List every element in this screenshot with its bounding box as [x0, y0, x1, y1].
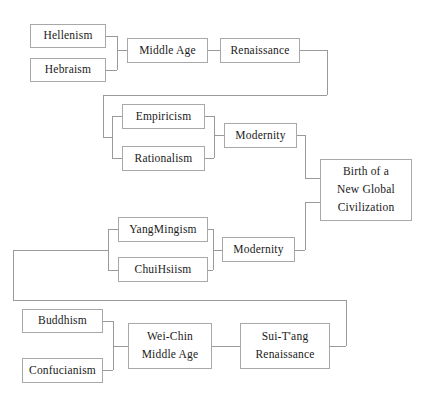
- node-rationalism[interactable]: Rationalism: [122, 146, 205, 171]
- node-label-line: Modernity: [235, 127, 285, 145]
- node-middle-age[interactable]: Middle Age: [127, 38, 208, 63]
- node-sui-tang[interactable]: Sui-T'angRenaissance: [240, 323, 330, 369]
- node-label-line: YangMingism: [129, 221, 197, 239]
- node-chuihsiism[interactable]: ChuiHsiism: [118, 257, 208, 282]
- node-label-line: Middle Age: [139, 42, 196, 60]
- node-label-line: Wei-Chin: [147, 328, 193, 346]
- node-label-line: New Global: [337, 181, 395, 199]
- node-label-line: Middle Age: [142, 346, 199, 364]
- node-label-line: Sui-T'ang: [262, 328, 309, 346]
- node-birth-global[interactable]: Birth of aNew GlobalCivilization: [320, 159, 412, 221]
- diagram-canvas: HellenismHebraismMiddle AgeRenaissanceEm…: [0, 0, 430, 402]
- node-hellenism[interactable]: Hellenism: [30, 24, 106, 48]
- node-label-line: Modernity: [233, 241, 283, 259]
- node-label-line: Hellenism: [43, 27, 92, 45]
- node-yangmingism[interactable]: YangMingism: [118, 217, 208, 242]
- node-label-line: Rationalism: [135, 150, 193, 168]
- node-label-line: ChuiHsiism: [135, 261, 192, 279]
- node-label-line: Empiricism: [136, 108, 192, 126]
- node-hebraism[interactable]: Hebraism: [30, 58, 106, 82]
- node-label-line: Hebraism: [45, 61, 91, 79]
- node-label-line: Renaissance: [255, 346, 314, 364]
- node-modernity-east[interactable]: Modernity: [222, 237, 295, 262]
- node-label-line: Confucianism: [29, 362, 96, 380]
- node-wei-chin[interactable]: Wei-ChinMiddle Age: [128, 323, 212, 369]
- node-label-line: Renaissance: [230, 42, 289, 60]
- node-label-line: Birth of a: [343, 163, 389, 181]
- node-label-line: Buddhism: [38, 312, 87, 330]
- node-empiricism[interactable]: Empiricism: [122, 104, 205, 129]
- node-buddhism[interactable]: Buddhism: [22, 309, 103, 333]
- node-modernity-west[interactable]: Modernity: [224, 123, 297, 148]
- node-confucianism[interactable]: Confucianism: [22, 358, 103, 383]
- node-label-line: Civilization: [338, 199, 395, 217]
- node-renaissance[interactable]: Renaissance: [220, 38, 300, 63]
